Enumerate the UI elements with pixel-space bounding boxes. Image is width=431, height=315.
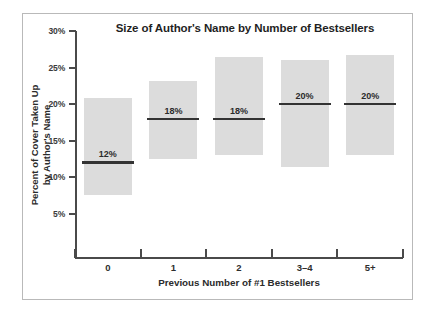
x-axis-tick [271,249,273,258]
y-axis-line [75,31,77,259]
y-axis-tick: 10% [69,176,76,178]
x-axis-title: Previous Number of #1 Bestsellers [75,277,403,288]
bar-value-label: 12% [78,149,138,159]
range-bar [281,60,329,167]
x-axis-tick [205,249,207,258]
bar-value-label: 18% [143,106,203,116]
y-axis-tick: 20% [69,103,76,105]
x-axis-tick [402,249,404,258]
x-axis-tick [336,249,338,258]
x-axis-category-label: 0 [78,262,138,273]
y-axis-tick-label: 10% [49,172,65,182]
y-axis-tick: 5% [69,213,76,215]
y-axis-tick-label: 15% [49,136,65,146]
y-axis-tick-label: 5% [53,209,65,219]
x-axis-tick [140,249,142,258]
y-axis-tick: 25% [69,67,76,69]
chart-figure: Size of Author's Name by Number of Bests… [0,0,431,315]
y-axis-tick: 15% [69,140,76,142]
y-axis-title-line-1: Percent of Cover Taken Up [29,85,41,206]
bar-value-label: 18% [209,106,269,116]
x-axis-category-label: 3–4 [275,262,335,273]
y-axis-tick-label: 25% [49,63,65,73]
range-bar [84,98,132,195]
x-axis-tick [74,249,76,258]
median-line [344,103,396,105]
median-line [147,118,199,120]
median-line [213,118,265,120]
x-axis-category-label: 1 [143,262,203,273]
x-axis-line [75,257,403,259]
bar-value-label: 20% [340,91,400,101]
y-axis-tick: 30% [69,30,76,32]
median-line [82,161,134,163]
median-line [279,103,331,105]
y-axis-tick-label: 30% [49,26,65,36]
x-axis-category-label: 2 [209,262,269,273]
bar-value-label: 20% [275,91,335,101]
y-axis-tick-label: 20% [49,99,65,109]
x-axis-category-label: 5+ [340,262,400,273]
chart-title: Size of Author's Name by Number of Bests… [90,22,400,34]
